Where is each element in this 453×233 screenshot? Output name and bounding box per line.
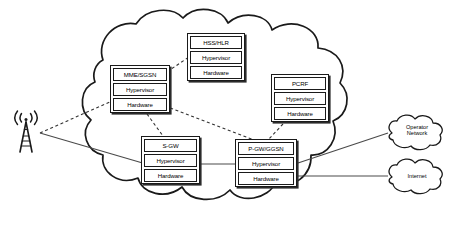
nf-box-pcrf[interactable]: PCRF Hypervisor Hardware (271, 74, 329, 122)
external-cloud-internet (389, 159, 442, 194)
nf-box-s-gw[interactable]: S-GW Hypervisor Hardware (141, 136, 200, 184)
nf-box-mme-sgsn[interactable]: MME/SGSN Hypervisor Hardware (110, 65, 170, 113)
nf-box-hss-hlr[interactable]: HSS/HLR Hypervisor Hardware (187, 33, 245, 81)
nf-row-hypervisor: Hypervisor (238, 157, 294, 170)
nf-box-p-gw-ggsn[interactable]: P-GW/GGSN Hypervisor Hardware (235, 139, 297, 187)
cell-tower-icon (15, 111, 37, 152)
nf-row-hypervisor: Hypervisor (113, 83, 167, 96)
nf-row-function: PCRF (274, 77, 326, 90)
nf-row-function: S-GW (144, 139, 197, 152)
nf-row-hypervisor: Hypervisor (274, 92, 326, 105)
nf-row-hypervisor: Hypervisor (144, 154, 197, 167)
network-architecture-diagram: HSS/HLR Hypervisor Hardware MME/SGSN Hyp… (0, 0, 453, 233)
nf-row-hardware: Hardware (190, 66, 242, 79)
external-cloud-operator-network (389, 115, 442, 150)
nf-row-hardware: Hardware (144, 169, 197, 182)
nf-row-hardware: Hardware (274, 107, 326, 120)
nf-row-function: MME/SGSN (113, 68, 167, 81)
nf-row-function: P-GW/GGSN (238, 142, 294, 155)
nf-row-hardware: Hardware (113, 98, 167, 111)
nf-row-function: HSS/HLR (190, 36, 242, 49)
nf-row-hardware: Hardware (238, 172, 294, 185)
nf-row-hypervisor: Hypervisor (190, 51, 242, 64)
